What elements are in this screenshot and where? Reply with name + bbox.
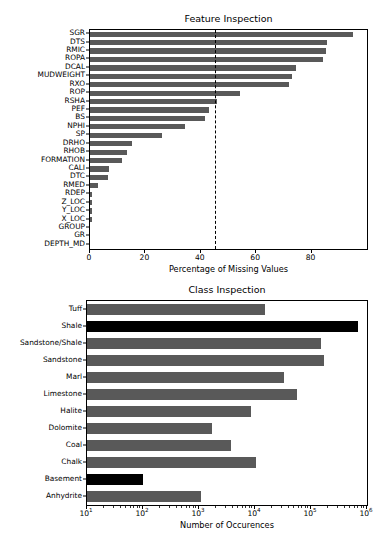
bar-row [90,107,367,112]
bar-row [90,48,367,53]
ytick-mark [86,210,89,211]
ytick-label: ROP [70,88,85,95]
bar-mudweight [90,74,292,79]
ytick-mark [86,125,89,126]
bar-row [87,474,367,486]
ytick-mark [83,461,86,462]
ytick-mark [86,176,89,177]
ytick-label: GROUP [58,223,85,230]
xtick-minor-mark [232,506,233,508]
ytick-mark [86,167,89,168]
bar-row [90,32,367,37]
ytick-label: Chalk [61,458,82,465]
bar-dcal [90,65,296,70]
xtick-minor-mark [137,506,138,508]
ytick-label: CALI [68,164,85,171]
bar-row [90,40,367,45]
xtick-minor-mark [288,506,289,508]
ytick-mark [86,83,89,84]
ytick-label: Marl [66,373,82,380]
bar-row [90,65,367,70]
xtick-minor-mark [176,506,177,508]
ytick-label: Coal [66,441,82,448]
ytick-mark [83,342,86,343]
bar-rhob [90,150,127,155]
xtick-label: 101 [79,510,92,518]
xtick-label: 103 [191,510,204,518]
ytick-mark [86,33,89,34]
bar-limestone [87,389,297,401]
ytick-mark [83,495,86,496]
ytick-mark [83,325,86,326]
bar-halite [87,406,251,418]
ytick-mark [86,66,89,67]
ytick-mark [86,142,89,143]
xtick-minor-mark [215,506,216,508]
ytick-label: Limestone [44,390,82,397]
bar-basement [87,474,143,486]
xtick-minor-mark [344,506,345,508]
xtick-minor-mark [113,506,114,508]
ytick-label: DTC [70,173,85,180]
bar-row [90,166,367,171]
bar-row [90,99,367,104]
xtick-minor-mark [298,506,299,508]
bar-rxo [90,82,289,87]
bar-row [87,338,367,350]
feature-inspection-chart: Feature Inspection Percentage of Missing… [89,29,368,250]
bar-row [90,242,367,247]
xtick-minor-mark [357,506,358,508]
bar-rmic [90,48,326,53]
bar-drho [90,141,132,146]
ytick-label: PEF [72,105,85,112]
bar-row [90,200,367,205]
xtick-label: 102 [135,510,148,518]
bar-y-loc [90,208,92,213]
xtick-minor-mark [159,506,160,508]
xtick-minor-mark [361,506,362,508]
bar-bs [90,116,205,121]
bar-row [90,124,367,129]
bar-nphi [90,124,185,129]
xtick-minor-mark [281,506,282,508]
figure-root: Feature Inspection Percentage of Missing… [0,0,391,560]
xtick-minor-mark [103,506,104,508]
bar-row [90,133,367,138]
ytick-label: Sandstone/Shale [20,339,82,346]
ytick-label: NPHI [67,122,85,129]
xtick-label: 80 [306,254,316,262]
bar-row [90,74,367,79]
ytick-label: Shale [61,322,82,329]
ytick-mark [83,427,86,428]
ytick-label: DRHO [63,139,85,146]
bar-pef [90,107,209,112]
xtick-minor-mark [307,506,308,508]
ytick-label: SP [76,131,85,138]
missing-threshold-line [215,30,216,249]
feature-plot-area [89,29,368,250]
ytick-mark [86,151,89,152]
ytick-label: FORMATION [41,156,85,163]
bar-row [87,304,367,316]
ytick-mark [86,100,89,101]
xtick-minor-mark [363,506,364,508]
ytick-mark [83,444,86,445]
bar-row [87,355,367,367]
bar-row [90,141,367,146]
bar-dts [90,40,327,45]
ytick-mark [83,359,86,360]
ytick-mark [83,410,86,411]
ytick-label: RMIC [66,46,85,53]
ytick-mark [83,376,86,377]
ytick-mark [86,184,89,185]
ytick-label: GR [74,232,85,239]
ytick-mark [86,50,89,51]
bar-row [90,217,367,222]
xtick-label: 105 [303,510,316,518]
ytick-label: DCAL [65,63,85,70]
bar-row [90,208,367,213]
ytick-label: Dolomite [49,424,83,431]
bar-cali [90,166,109,171]
ytick-mark [86,75,89,76]
ytick-label: Z_LOC [61,198,85,205]
